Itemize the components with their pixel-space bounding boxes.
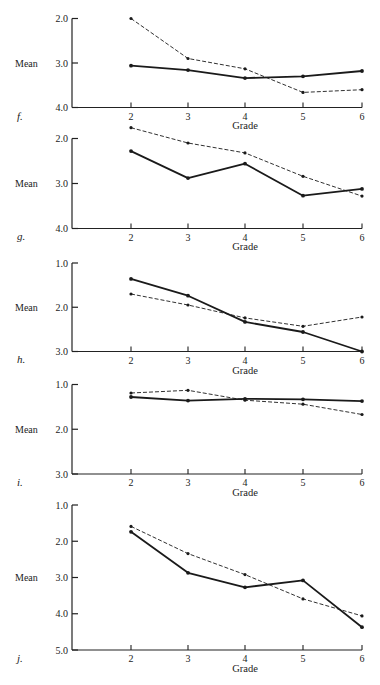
y-axis-label: Mean	[15, 178, 38, 189]
data-point	[243, 585, 247, 589]
data-point	[243, 162, 247, 166]
x-tick-label: 3	[186, 111, 191, 122]
data-point	[186, 294, 190, 298]
x-axis-label: Grade	[232, 487, 258, 498]
data-point	[301, 194, 305, 198]
data-point	[360, 88, 363, 91]
y-tick-label: 1.0	[56, 379, 69, 390]
x-tick-label: 3	[186, 653, 191, 664]
data-point	[243, 76, 247, 80]
data-point	[301, 397, 305, 401]
data-point	[360, 195, 363, 198]
x-tick-label: 2	[129, 111, 134, 122]
data-point	[186, 571, 190, 575]
chart-panel-h: 1.02.03.023456MeanGradeh.	[15, 258, 365, 377]
data-point	[186, 552, 189, 555]
line-charts-figure: 2.03.04.023456MeanGradef.2.03.04.023456M…	[0, 0, 380, 685]
y-axis-label: Mean	[15, 302, 38, 313]
x-tick-label: 2	[129, 653, 134, 664]
y-tick-label: 2.0	[56, 13, 69, 24]
chart-panel-f: 2.03.04.023456MeanGradef.	[15, 13, 365, 131]
x-tick-label: 6	[360, 477, 365, 488]
figure: 2.03.04.023456MeanGradef.2.03.04.023456M…	[0, 0, 380, 685]
panel-letter: f.	[17, 110, 23, 122]
y-tick-label: 3.0	[56, 58, 69, 69]
x-axis-label: Grade	[232, 365, 258, 376]
data-point	[129, 277, 133, 281]
data-point	[129, 126, 132, 129]
x-tick-label: 5	[301, 355, 306, 366]
series-line-solid	[131, 151, 362, 196]
y-tick-label: 1.0	[56, 500, 69, 511]
data-point	[243, 151, 246, 154]
data-point	[301, 330, 305, 334]
x-tick-label: 5	[301, 232, 306, 243]
data-point	[301, 403, 304, 406]
x-tick-label: 4	[243, 355, 248, 366]
y-tick-label: 2.0	[56, 536, 69, 547]
x-tick-label: 2	[129, 477, 134, 488]
series-line-solid	[131, 66, 362, 78]
x-tick-label: 3	[186, 232, 191, 243]
x-tick-label: 5	[301, 477, 306, 488]
x-tick-label: 6	[360, 232, 365, 243]
chart-panel-i: 1.02.03.023456MeanGradei.	[15, 379, 365, 498]
x-tick-label: 2	[129, 232, 134, 243]
y-tick-label: 3.0	[56, 346, 69, 357]
series-line-dashed	[131, 390, 362, 414]
x-tick-label: 6	[360, 653, 365, 664]
data-point	[301, 175, 304, 178]
data-point	[129, 525, 132, 528]
series-line-dashed	[131, 128, 362, 196]
x-tick-label: 5	[301, 111, 306, 122]
data-point	[129, 17, 132, 20]
data-point	[360, 187, 364, 191]
y-tick-label: 3.0	[56, 469, 69, 480]
x-axis-label: Grade	[232, 241, 258, 252]
data-point	[360, 413, 363, 416]
y-tick-label: 2.0	[56, 133, 69, 144]
data-point	[129, 391, 132, 394]
data-point	[243, 320, 247, 324]
data-point	[360, 315, 363, 318]
y-tick-label: 3.0	[56, 572, 69, 583]
y-axis-label: Mean	[15, 572, 38, 583]
y-tick-label: 4.0	[56, 102, 69, 113]
data-point	[243, 67, 246, 70]
data-point	[186, 57, 189, 60]
series-line-solid	[131, 532, 362, 627]
panel-letter: j.	[15, 652, 23, 664]
data-point	[360, 69, 364, 73]
data-point	[301, 74, 305, 78]
data-point	[186, 399, 190, 403]
y-tick-label: 2.0	[56, 302, 69, 313]
y-axis-label: Mean	[15, 58, 38, 69]
series-line-dashed	[131, 19, 362, 93]
data-point	[129, 64, 133, 68]
y-tick-label: 3.0	[56, 178, 69, 189]
data-point	[186, 176, 190, 180]
chart-panel-j: 1.02.03.04.05.023456MeanGradej.	[15, 500, 365, 675]
data-point	[129, 530, 133, 534]
x-tick-label: 3	[186, 477, 191, 488]
x-tick-label: 6	[360, 355, 365, 366]
y-tick-label: 4.0	[56, 223, 69, 234]
x-tick-label: 6	[360, 111, 365, 122]
y-tick-label: 1.0	[56, 258, 69, 269]
data-point	[186, 141, 189, 144]
x-axis-label: Grade	[232, 663, 258, 674]
data-point	[360, 399, 364, 403]
x-tick-label: 5	[301, 653, 306, 664]
data-point	[301, 579, 305, 583]
panel-letter: i.	[17, 476, 23, 488]
data-point	[186, 68, 190, 72]
panel-letter: g.	[17, 230, 25, 242]
data-point	[360, 350, 364, 354]
y-tick-label: 4.0	[56, 608, 69, 619]
data-point	[186, 303, 189, 306]
data-point	[129, 149, 133, 153]
data-point	[301, 597, 304, 600]
chart-panel-g: 2.03.04.023456MeanGradeg.	[15, 126, 365, 252]
data-point	[301, 325, 304, 328]
data-point	[129, 395, 133, 399]
